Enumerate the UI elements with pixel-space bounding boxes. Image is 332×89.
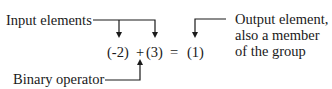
output-label-line2: also a member (235, 27, 320, 43)
arrow-down-icon (116, 32, 122, 38)
arrow-down-icon (152, 32, 158, 38)
input-connector-line (93, 20, 155, 33)
output-label-line1: Output element, (235, 11, 328, 27)
output-connector-line (195, 19, 226, 33)
operator-symbol: + (136, 44, 144, 60)
operand-1: (-2) (107, 44, 129, 60)
operator-connector-line (105, 64, 140, 80)
input-elements-label: Input elements (6, 12, 92, 28)
result: (1) (187, 44, 204, 60)
arrow-down-icon (192, 32, 198, 38)
binary-operator-label: Binary operator (13, 71, 104, 87)
operand-2: (3) (146, 44, 163, 60)
equals-symbol: = (170, 44, 178, 60)
output-label-line3: of the group (235, 43, 306, 59)
